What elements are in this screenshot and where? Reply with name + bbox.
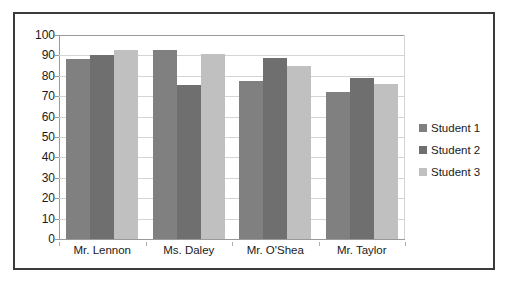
y-axis-tick-label: 100 <box>25 29 55 41</box>
bar[interactable] <box>239 81 263 239</box>
bar[interactable] <box>326 92 350 239</box>
y-axis-tick-label: 10 <box>25 213 55 225</box>
bar[interactable] <box>114 50 138 239</box>
bar-group <box>146 35 233 239</box>
y-axis-tick-label: 30 <box>25 172 55 184</box>
legend-item[interactable]: Student 2 <box>419 140 495 159</box>
bar[interactable] <box>177 85 201 239</box>
chart-card: 1009080706050403020100 Mr. LennonMs. Dal… <box>13 12 495 270</box>
y-axis-labels: 1009080706050403020100 <box>19 35 55 239</box>
x-axis-tick-mark <box>146 242 147 246</box>
legend-item-label: Student 1 <box>431 122 480 134</box>
y-axis-tick-label: 90 <box>25 49 55 61</box>
x-axis-labels: Mr. LennonMs. DaleyMr. O'SheaMr. Taylor <box>59 242 405 262</box>
bar[interactable] <box>66 59 90 239</box>
bar[interactable] <box>201 54 225 239</box>
y-axis-tick-label: 20 <box>25 192 55 204</box>
y-axis-tick-label: 70 <box>25 90 55 102</box>
x-axis-tick-label: Mr. Lennon <box>59 244 146 256</box>
bar[interactable] <box>374 84 398 239</box>
legend-item-label: Student 3 <box>431 166 480 178</box>
screenshot-root: 1009080706050403020100 Mr. LennonMs. Dal… <box>0 0 513 284</box>
bar-group <box>232 35 319 239</box>
x-axis-tick-mark <box>59 242 60 246</box>
legend-item[interactable]: Student 1 <box>419 118 495 137</box>
gridline <box>59 239 405 240</box>
bar[interactable] <box>263 58 287 239</box>
x-axis-tick-label: Ms. Daley <box>146 244 233 256</box>
y-axis-tick-label: 50 <box>25 131 55 143</box>
bar[interactable] <box>153 50 177 239</box>
x-axis-tick-label: Mr. Taylor <box>319 244 406 256</box>
x-axis-tick-label: Mr. O'Shea <box>232 244 319 256</box>
y-axis-tick-label: 80 <box>25 70 55 82</box>
legend-item[interactable]: Student 3 <box>419 162 495 181</box>
legend-swatch-icon <box>419 146 427 154</box>
legend-swatch-icon <box>419 168 427 176</box>
legend-swatch-icon <box>419 124 427 132</box>
bar[interactable] <box>287 66 311 239</box>
y-axis-tick-label: 40 <box>25 151 55 163</box>
x-axis-tick-mark <box>319 242 320 246</box>
bar-group <box>59 35 146 239</box>
plot-area <box>59 35 405 239</box>
y-axis-tick-label: 60 <box>25 111 55 123</box>
y-axis-tick-label: 0 <box>25 233 55 245</box>
legend-item-label: Student 2 <box>431 144 480 156</box>
chart-legend: Student 1Student 2Student 3 <box>419 118 495 184</box>
bar[interactable] <box>350 78 374 239</box>
bar-group <box>319 35 406 239</box>
x-axis-tick-mark <box>232 242 233 246</box>
bar[interactable] <box>90 55 114 239</box>
x-axis-tick-mark <box>405 242 406 246</box>
